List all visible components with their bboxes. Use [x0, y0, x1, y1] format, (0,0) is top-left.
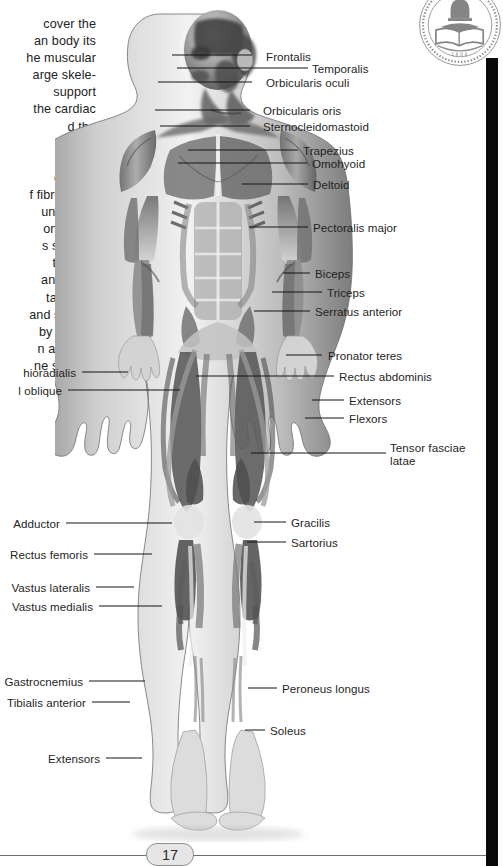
label-frontalis: Frontalis	[266, 50, 311, 63]
label-sternocleidomastoid: Sternocleidomastoid	[263, 120, 369, 133]
label-tensor-fasciae-latae: Tensor fasciae latae	[390, 441, 476, 467]
label-pectoralis-major: Pectoralis major	[313, 221, 397, 234]
label-gracilis: Gracilis	[291, 516, 330, 529]
page-edge-bar	[486, 58, 498, 866]
label-rectus-abdominis: Rectus abdominis	[339, 370, 432, 383]
label-serratus-anterior: Serratus anterior	[315, 305, 402, 318]
label-trapezius: Trapezius	[303, 144, 354, 157]
label-deltoid: Deltoid	[313, 178, 349, 191]
label-external-oblique: l oblique	[0, 384, 62, 397]
label-adductor: Adductor	[0, 517, 60, 530]
label-brachioradialis: hioradialis	[0, 366, 76, 379]
label-tibialis-anterior: Tibialis anterior	[0, 696, 86, 709]
footer-rule	[0, 855, 486, 856]
label-vastus-medialis: Vastus medialis	[0, 600, 93, 613]
label-extensors-foot: Extensors	[0, 752, 100, 765]
label-temporalis: Temporalis	[312, 62, 369, 75]
label-biceps: Biceps	[315, 267, 350, 280]
seal-year: 1888	[451, 52, 469, 57]
page-number: 17	[162, 847, 178, 863]
label-orbicularis-oculi: Orbicularis oculi	[266, 76, 349, 89]
label-vastus-lateralis: Vastus lateralis	[0, 581, 90, 594]
label-peroneus-longus: Peroneus longus	[282, 682, 370, 695]
label-extensors-arm: Extensors	[349, 394, 401, 407]
label-soleus: Soleus	[270, 724, 306, 737]
label-flexors-arm: Flexors	[349, 412, 387, 425]
label-orbicularis-oris: Orbicularis oris	[263, 104, 341, 117]
page-number-badge: 17	[146, 843, 194, 866]
label-rectus-femoris: Rectus femoris	[0, 548, 88, 561]
label-sartorius: Sartorius	[291, 536, 338, 549]
label-gastrocnemius: Gastrocnemius	[0, 675, 83, 688]
label-omohyoid: Omohyoid	[312, 157, 365, 170]
label-pronator-teres: Pronator teres	[328, 349, 402, 362]
label-triceps: Triceps	[327, 286, 365, 299]
